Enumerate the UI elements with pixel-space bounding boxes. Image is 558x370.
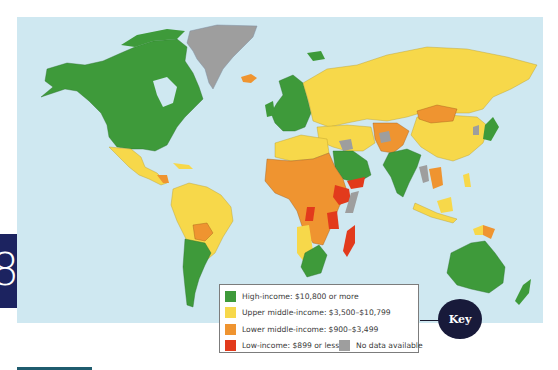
world-map-svg [17,17,543,323]
chapter-number: 8 [0,248,17,292]
region-southern-cone [183,239,211,307]
region-east-africa-low [327,211,339,229]
key-badge-label: Key [449,313,472,326]
upper-middle-income-swatch [225,307,236,318]
high-income-swatch [225,291,236,302]
region-png [483,225,495,239]
region-japan [483,117,499,141]
region-caribbean [173,163,193,169]
region-iceland [241,74,257,83]
region-afghanistan [379,131,391,143]
legend-label: Low-income: $899 or less [242,341,339,350]
lower-middle-income-swatch [225,324,236,335]
region-central-asia [373,123,409,153]
map-legend: High-income: $10,800 or more Upper middl… [219,284,419,353]
region-madagascar [343,225,355,257]
key-connector-line [420,320,440,321]
legend-label: High-income: $10,800 or more [242,292,359,301]
chapter-number-tab: 8 [0,234,17,308]
region-new-zealand [515,279,531,305]
legend-item-lower-middle-income: Lower middle-income: $900–$3,499 [225,321,414,338]
region-philippines [463,173,471,187]
no-data-swatch [339,340,350,351]
legend-item-high-income: High-income: $10,800 or more [225,288,414,305]
region-uk [265,101,275,117]
legend-item-upper-middle-income: Upper middle-income: $3,500–$10,799 [225,305,414,322]
key-badge: Key [438,299,482,339]
legend-label: No data available [356,341,423,350]
region-borneo [437,197,453,213]
region-mexico-central-america [109,147,167,185]
legend-item-low-income: Low-income: $899 or less No data availab… [225,338,414,355]
low-income-swatch [225,340,236,351]
region-north-america [41,39,203,151]
region-china [411,115,489,161]
region-australia [447,241,505,293]
legend-label: Upper middle-income: $3,500–$10,799 [242,308,391,317]
region-svalbard [307,51,325,61]
world-income-map [17,17,543,323]
region-india [383,149,421,197]
legend-label: Lower middle-income: $900–$3,499 [242,325,378,334]
region-indochina [429,167,443,189]
region-myanmar [419,165,429,183]
